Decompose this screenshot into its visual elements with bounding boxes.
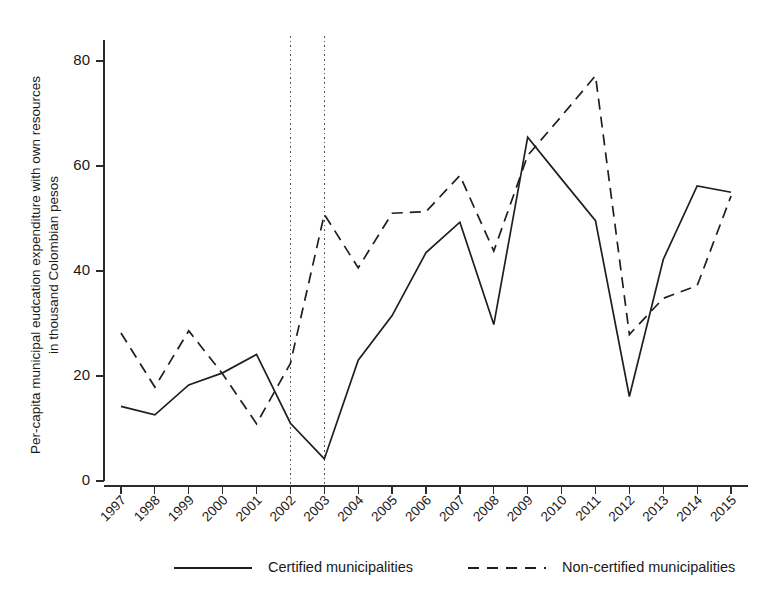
- x-tick-label: 2000: [199, 493, 231, 525]
- legend-label-certified: Certified municipalities: [268, 559, 413, 575]
- x-tick-label: 2009: [504, 493, 536, 525]
- y-tick-label: 20: [73, 366, 90, 383]
- x-tick-label: 2003: [301, 493, 333, 525]
- line-chart-canvas: Per-capita municipal eudcation expenditu…: [0, 0, 766, 589]
- x-tick-label: 1999: [165, 493, 197, 525]
- y-tick-label: 40: [73, 261, 90, 278]
- x-tick-label: 2008: [470, 493, 502, 525]
- x-tick-label: 2012: [606, 493, 638, 525]
- series-line-non-certified: [121, 76, 731, 424]
- y-axis-title-line1: Per-capita municipal eudcation expenditu…: [28, 76, 43, 454]
- x-tick-label: 2002: [267, 493, 299, 525]
- x-tick-label: 2011: [572, 493, 603, 524]
- data-series-group: [121, 76, 731, 459]
- y-axis-ticks: 020406080: [73, 51, 104, 488]
- axes: [104, 40, 748, 486]
- chart-legend: Certified municipalities Non-certified m…: [174, 559, 735, 575]
- y-tick-label: 80: [73, 51, 90, 68]
- x-tick-label: 2005: [368, 493, 400, 525]
- legend-label-non-certified: Non-certified municipalities: [562, 559, 735, 575]
- x-tick-label: 2014: [673, 492, 705, 524]
- x-tick-label: 2015: [707, 493, 739, 525]
- x-tick-label: 1998: [131, 493, 163, 525]
- x-tick-label: 2010: [538, 493, 570, 525]
- x-tick-label: 2013: [640, 493, 672, 525]
- y-axis-title: Per-capita municipal eudcation expenditu…: [28, 76, 61, 454]
- x-tick-label: 2004: [334, 492, 366, 524]
- x-tick-label: 1997: [97, 493, 129, 525]
- y-tick-label: 60: [73, 156, 90, 173]
- x-axis-ticks: 1997199819992000200120022003200420052006…: [97, 486, 739, 524]
- chart-figure: Per-capita municipal eudcation expenditu…: [0, 0, 766, 589]
- y-axis-title-line2: in thousand Colombian pesos: [46, 176, 61, 354]
- x-tick-label: 2001: [233, 493, 265, 525]
- y-tick-label: 0: [82, 471, 90, 488]
- x-tick-label: 2006: [402, 493, 434, 525]
- x-tick-label: 2007: [436, 493, 468, 525]
- series-line-certified: [121, 137, 731, 459]
- reference-lines: [290, 36, 324, 486]
